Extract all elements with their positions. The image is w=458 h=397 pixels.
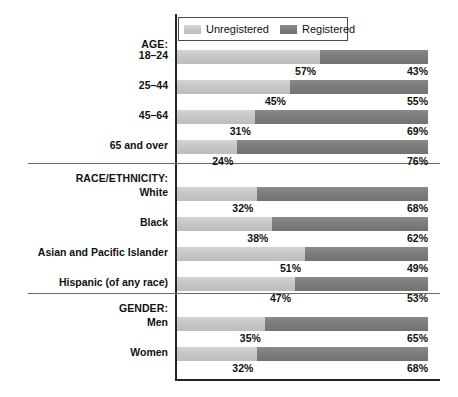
group-heading: GENDER:	[0, 302, 168, 314]
legend-swatch-unregistered-icon	[184, 25, 201, 34]
bar-segment-unregistered	[177, 187, 257, 201]
value-label-unregistered: 24%	[147, 155, 233, 167]
legend-item-unregistered: Unregistered	[184, 23, 269, 35]
stacked-bar	[177, 347, 428, 361]
value-label-unregistered: 57%	[230, 65, 316, 77]
value-label-unregistered: 51%	[215, 262, 301, 274]
stacked-bar	[177, 187, 428, 201]
stacked-bar	[177, 140, 428, 154]
category-label: Black	[0, 216, 168, 228]
legend-label-registered: Registered	[302, 23, 355, 35]
category-label: Hispanic (of any race)	[0, 276, 168, 288]
group-heading: RACE/ETHNICITY:	[0, 172, 168, 184]
stacked-bar	[177, 110, 428, 124]
category-label: Men	[0, 316, 168, 328]
stacked-bar	[177, 80, 428, 94]
bar-segment-registered	[272, 217, 428, 231]
bar-segment-unregistered	[177, 140, 237, 154]
bar-segment-unregistered	[177, 347, 257, 361]
bar-segment-registered	[257, 347, 428, 361]
legend-item-registered: Registered	[280, 23, 355, 35]
bar-segment-registered	[257, 187, 428, 201]
category-label: Asian and Pacific Islander	[0, 246, 168, 258]
category-label: 45–64	[0, 109, 168, 121]
value-label-unregistered: 32%	[167, 362, 253, 374]
value-label-registered: 68%	[342, 202, 428, 214]
bar-segment-unregistered	[177, 317, 265, 331]
bar-segment-unregistered	[177, 50, 320, 64]
x-axis-line	[175, 379, 440, 381]
bar-segment-unregistered	[177, 247, 305, 261]
legend-swatch-registered-icon	[280, 25, 297, 34]
stacked-bar	[177, 317, 428, 331]
value-label-registered: 53%	[342, 292, 428, 304]
category-label: Women	[0, 346, 168, 358]
bar-segment-registered	[237, 140, 428, 154]
bar-segment-registered	[295, 277, 428, 291]
value-label-registered: 62%	[342, 232, 428, 244]
value-label-registered: 43%	[342, 65, 428, 77]
value-label-registered: 68%	[342, 362, 428, 374]
category-label: White	[0, 186, 168, 198]
category-label: 18–24	[0, 49, 168, 61]
value-label-unregistered: 32%	[167, 202, 253, 214]
stacked-bar	[177, 50, 428, 64]
value-label-registered: 76%	[342, 155, 428, 167]
category-label: 65 and over	[0, 139, 168, 151]
value-label-unregistered: 35%	[175, 332, 261, 344]
bar-segment-registered	[320, 50, 428, 64]
stacked-bar	[177, 277, 428, 291]
value-label-unregistered: 45%	[200, 95, 286, 107]
bar-segment-unregistered	[177, 217, 272, 231]
stacked-bar	[177, 247, 428, 261]
chart-legend: Unregistered Registered	[178, 17, 348, 41]
value-label-registered: 69%	[342, 125, 428, 137]
category-label: 25–44	[0, 79, 168, 91]
bar-segment-unregistered	[177, 277, 295, 291]
value-label-unregistered: 38%	[182, 232, 268, 244]
value-label-registered: 65%	[342, 332, 428, 344]
value-label-registered: 49%	[342, 262, 428, 274]
legend-label-unregistered: Unregistered	[206, 23, 269, 35]
bar-segment-unregistered	[177, 110, 255, 124]
value-label-registered: 55%	[342, 95, 428, 107]
stacked-bar-chart: Unregistered Registered AGE:18–2457%43%2…	[0, 0, 458, 397]
bar-segment-registered	[290, 80, 428, 94]
bar-segment-registered	[305, 247, 428, 261]
bar-segment-registered	[265, 317, 428, 331]
value-label-unregistered: 47%	[205, 292, 291, 304]
bar-segment-registered	[255, 110, 428, 124]
stacked-bar	[177, 217, 428, 231]
bar-segment-unregistered	[177, 80, 290, 94]
value-label-unregistered: 31%	[165, 125, 251, 137]
